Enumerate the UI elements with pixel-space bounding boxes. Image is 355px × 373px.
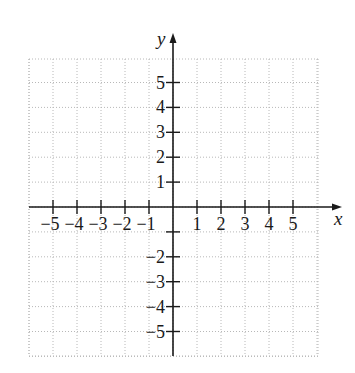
x-tick-label: −3 [88,214,107,234]
x-tick-label: 4 [265,214,274,234]
y-axis-label: y [155,28,166,49]
y-tick-label: −2 [146,247,165,267]
coordinate-plane: x y −5−4−3−2−112345 54321−2−3−4−5 [0,0,355,373]
x-tick-label: −5 [40,214,59,234]
x-tick-label: 2 [217,214,226,234]
y-tick-label: −5 [146,322,165,342]
y-tick-label: 5 [156,73,165,93]
x-tick-label: 3 [241,214,250,234]
y-tick-label: 1 [156,172,165,192]
x-tick-label: −1 [136,214,155,234]
x-tick-label: 1 [193,214,202,234]
x-tick-label: −4 [64,214,83,234]
y-axis-arrow-icon [170,33,177,43]
x-axis-label: x [333,208,343,229]
x-axis-ticks: −5−4−3−2−112345 [40,200,297,234]
y-tick-label: 3 [156,122,165,142]
y-tick-label: −4 [146,297,165,317]
x-tick-label: 5 [289,214,298,234]
y-tick-label: 4 [156,97,165,117]
y-tick-label: 2 [156,147,165,167]
x-tick-label: −2 [112,214,131,234]
y-tick-label: −3 [146,272,165,292]
